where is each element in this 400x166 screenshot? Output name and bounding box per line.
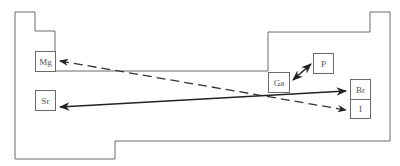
periodic-table-diagram xyxy=(0,0,400,166)
element-box-i: I xyxy=(350,99,371,119)
element-symbol: Mg xyxy=(39,57,52,67)
element-symbol: P xyxy=(321,59,326,69)
element-symbol: I xyxy=(359,104,362,114)
element-box-sr: Sr xyxy=(35,90,56,111)
arrow-sr-br xyxy=(60,91,346,107)
element-symbol: Br xyxy=(356,85,365,95)
element-box-mg: Mg xyxy=(35,51,56,72)
element-box-ga: Ga xyxy=(268,72,290,93)
element-symbol: Sr xyxy=(41,96,49,106)
arrow-ga-p xyxy=(293,64,311,80)
element-symbol: Ga xyxy=(274,78,285,88)
arrow-mg-i xyxy=(60,61,346,110)
element-box-br: Br xyxy=(350,79,371,100)
element-box-p: P xyxy=(313,53,334,74)
